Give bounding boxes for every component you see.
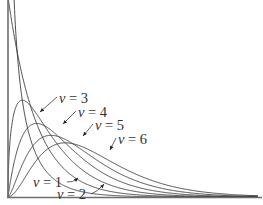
chi-squared-chart: v = 3v = 4v = 5v = 6v = 1v = 2 <box>0 0 263 205</box>
density-curves <box>8 0 258 197</box>
curve-v2 <box>8 0 258 197</box>
curve-v1 <box>14 0 258 197</box>
curve-label: v = 6 <box>118 131 147 147</box>
curve-label: v = 2 <box>57 186 86 202</box>
